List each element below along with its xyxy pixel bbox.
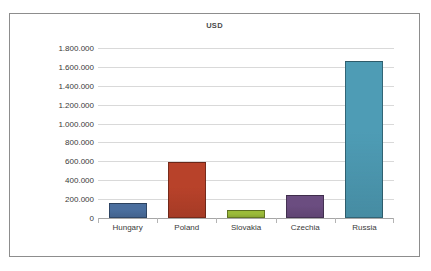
x-axis-label-slovakia: Slovakia [231,223,261,232]
x-axis-label-hungary: Hungary [112,223,142,232]
bar-russia[interactable] [345,61,383,218]
bar-slovakia[interactable] [227,210,265,219]
y-axis-tick-label: 600.000 [65,157,94,166]
y-axis-labels: 0200.000400.000600.000800.0001.000.0001.… [30,48,94,218]
bar-slot [216,48,275,218]
y-axis-tick-label: 1.400.000 [58,81,94,90]
bar-hungary[interactable] [109,203,147,218]
y-axis-tick-label: 1.600.000 [58,62,94,71]
bar-slot [335,48,394,218]
bar-slot [276,48,335,218]
x-axis-label-russia: Russia [352,223,376,232]
x-axis-label-poland: Poland [174,223,199,232]
y-axis-tick-label: 0 [90,214,94,223]
x-axis-labels: HungaryPolandSlovakiaCzechiaRussia [98,223,394,239]
chart-title: USD [10,21,419,30]
y-axis-tick-label: 200.000 [65,195,94,204]
bar-slot [98,48,157,218]
bar-series [98,48,394,218]
x-axis-label-czechia: Czechia [291,223,320,232]
bar-poland[interactable] [168,162,206,218]
y-axis-tick-label: 400.000 [65,176,94,185]
bar-slot [157,48,216,218]
y-axis-tick-label: 1.000.000 [58,119,94,128]
bar-czechia[interactable] [286,195,324,218]
y-axis-tick-label: 1.800.000 [58,44,94,53]
chart-frame: USD 0200.000400.000600.000800.0001.000.0… [9,13,420,257]
y-axis-tick-label: 800.000 [65,138,94,147]
y-axis-tick-label: 1.200.000 [58,100,94,109]
